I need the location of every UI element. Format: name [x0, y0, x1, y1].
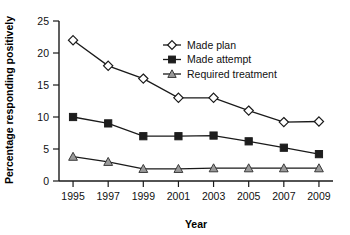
- marker-open-diamond-2009: [314, 117, 323, 126]
- y-tick-label-5: 5: [43, 143, 49, 155]
- y-tick-label-20: 20: [37, 47, 49, 59]
- marker-filled-square-2003: [210, 132, 217, 139]
- legend-item-required-treatment: Required treatment: [163, 68, 277, 80]
- x-axis-title: Year: [185, 218, 207, 230]
- marker-filled-square-2001: [175, 133, 182, 140]
- x-tick-label-1995: 1995: [61, 190, 85, 202]
- marker-filled-square-2005: [245, 138, 252, 145]
- marker-open-diamond-legend: [168, 41, 177, 50]
- x-tick-label-2003: 2003: [202, 190, 226, 202]
- y-axis-ticks: 0 5 10 15 20 25: [37, 15, 59, 187]
- marker-open-diamond-2005: [244, 106, 253, 115]
- y-tick-label-10: 10: [37, 111, 49, 123]
- x-tick-label-2001: 2001: [167, 190, 191, 202]
- marker-open-diamond-1997: [104, 61, 113, 70]
- legend-label: Required treatment: [187, 68, 277, 80]
- legend-label: Made attempt: [187, 53, 251, 65]
- chart-legend: Made planMade attemptRequired treatment: [163, 39, 277, 80]
- marker-gray-triangle-1995: [69, 152, 78, 160]
- legend-item-made-attempt: Made attempt: [163, 53, 251, 65]
- marker-open-diamond-2003: [209, 93, 218, 102]
- marker-open-diamond-2001: [174, 93, 183, 102]
- y-tick-label-15: 15: [37, 79, 49, 91]
- marker-open-diamond-2007: [279, 118, 288, 127]
- x-tick-label-1999: 1999: [132, 190, 156, 202]
- line-chart: Percentage responding positively Year 0 …: [0, 0, 350, 235]
- x-tick-label-2007: 2007: [272, 190, 296, 202]
- y-tick-label-25: 25: [37, 15, 49, 27]
- marker-open-diamond-1999: [139, 74, 148, 83]
- y-axis-title: Percentage responding positively: [3, 16, 15, 184]
- x-axis-ticks: 19951997199920012003200520072009: [61, 181, 330, 202]
- chart-container: Percentage responding positively Year 0 …: [0, 0, 350, 235]
- legend-label: Made plan: [187, 39, 236, 51]
- y-tick-label-0: 0: [43, 175, 49, 187]
- x-tick-label-2009: 2009: [307, 190, 331, 202]
- marker-filled-square-2009: [315, 151, 322, 158]
- marker-open-diamond-1995: [68, 36, 77, 45]
- marker-filled-square-2007: [280, 144, 287, 151]
- x-tick-label-1997: 1997: [96, 190, 120, 202]
- legend-item-made-plan: Made plan: [163, 39, 236, 51]
- series-required-treatment: [69, 152, 324, 172]
- marker-filled-square-1995: [69, 113, 76, 120]
- marker-filled-square-1997: [105, 120, 112, 127]
- x-tick-label-2005: 2005: [237, 190, 261, 202]
- marker-filled-square-legend: [169, 56, 176, 63]
- marker-filled-square-1999: [140, 133, 147, 140]
